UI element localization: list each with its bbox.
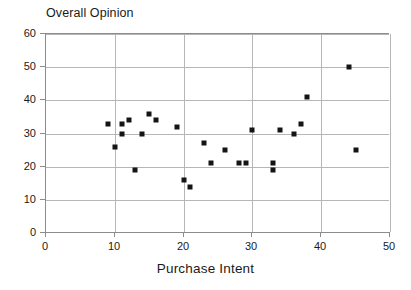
data-point <box>353 148 358 153</box>
gridline-horizontal <box>46 34 389 35</box>
x-axis-tick <box>114 232 115 237</box>
data-point <box>174 124 179 129</box>
y-axis-tick-label: 20 <box>36 160 48 172</box>
plot-inner <box>46 34 389 232</box>
x-axis-tick <box>389 232 390 237</box>
x-axis-tick-label: 20 <box>177 240 189 252</box>
gridline-horizontal <box>46 67 389 68</box>
y-axis-tick-label: 60 <box>36 27 48 39</box>
x-axis-tick <box>45 232 46 237</box>
data-point <box>346 65 351 70</box>
data-point <box>202 141 207 146</box>
x-axis-tick-label: 0 <box>42 240 48 252</box>
plot-area <box>45 33 389 232</box>
data-point <box>209 161 214 166</box>
data-point <box>105 121 110 126</box>
chart-title: Overall Opinion <box>46 6 134 20</box>
y-axis-tick-label: 0 <box>36 226 42 238</box>
data-point <box>147 111 152 116</box>
data-point <box>305 95 310 100</box>
x-axis-line <box>45 232 390 233</box>
x-axis-tick <box>320 232 321 237</box>
y-axis-tick-label: 10 <box>36 193 48 205</box>
data-point <box>112 144 117 149</box>
gridline-vertical <box>115 34 116 232</box>
data-point <box>126 118 131 123</box>
x-axis-tick-label: 10 <box>108 240 120 252</box>
data-point <box>243 161 248 166</box>
x-axis-tick-label: 50 <box>383 240 395 252</box>
gridline-horizontal <box>46 100 389 101</box>
data-point <box>271 167 276 172</box>
y-axis-tick-label: 50 <box>36 60 48 72</box>
gridline-horizontal <box>46 134 389 135</box>
y-axis-tick-label: 30 <box>36 127 48 139</box>
data-point <box>271 161 276 166</box>
x-axis-tick-label: 40 <box>314 240 326 252</box>
data-point <box>298 121 303 126</box>
gridline-vertical <box>390 34 391 232</box>
data-point <box>119 121 124 126</box>
y-axis-tick-label: 40 <box>36 93 48 105</box>
data-point <box>188 184 193 189</box>
x-axis-title: Purchase Intent <box>0 261 411 276</box>
data-point <box>119 131 124 136</box>
gridline-vertical <box>184 34 185 232</box>
data-point <box>140 131 145 136</box>
data-point <box>291 131 296 136</box>
data-point <box>250 128 255 133</box>
scatter-plot-figure: Overall Opinion 010203040500102030405060… <box>0 0 411 290</box>
data-point <box>222 148 227 153</box>
x-axis-tick-label: 30 <box>245 240 257 252</box>
data-point <box>277 128 282 133</box>
gridline-vertical <box>321 34 322 232</box>
x-axis-tick <box>183 232 184 237</box>
data-point <box>154 118 159 123</box>
data-point <box>236 161 241 166</box>
gridline-horizontal <box>46 167 389 168</box>
x-axis-tick <box>251 232 252 237</box>
data-point <box>181 177 186 182</box>
gridline-horizontal <box>46 200 389 201</box>
gridline-vertical <box>252 34 253 232</box>
data-point <box>133 167 138 172</box>
